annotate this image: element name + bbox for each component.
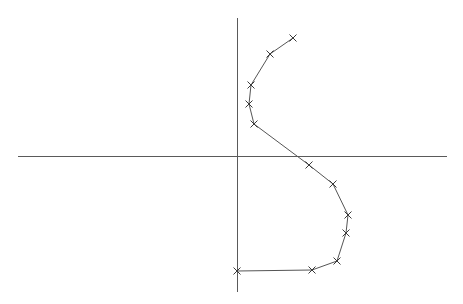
series-markers bbox=[234, 35, 352, 275]
data-point-marker bbox=[290, 35, 297, 42]
series-group bbox=[234, 35, 352, 275]
chart-canvas bbox=[0, 0, 463, 304]
data-point-marker bbox=[267, 51, 274, 58]
axes-group bbox=[18, 18, 447, 292]
data-point-marker bbox=[306, 162, 313, 169]
plot-svg bbox=[0, 0, 463, 304]
series-line bbox=[237, 38, 348, 271]
data-point-marker bbox=[334, 258, 341, 265]
data-point-marker bbox=[251, 121, 258, 128]
data-point-marker bbox=[330, 181, 337, 188]
